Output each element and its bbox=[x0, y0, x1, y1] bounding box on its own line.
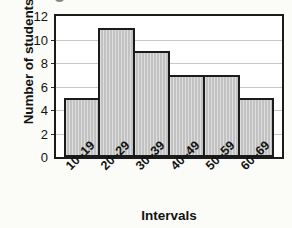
x-axis-title: Intervals bbox=[54, 208, 284, 223]
x-axis-tick-labels: 10–1920–2930–3940–4950–5960–69 bbox=[0, 0, 292, 228]
histogram-chart: Number of students 024681012 10–1920–293… bbox=[0, 0, 292, 228]
